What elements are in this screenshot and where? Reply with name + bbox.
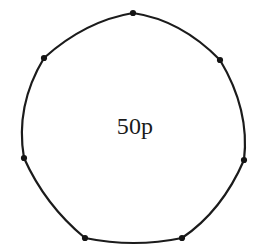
vertex-marker-upper-right: [217, 57, 223, 63]
coin-diagram: 50p: [0, 0, 258, 251]
vertex-marker-top: [130, 10, 136, 16]
vertex-marker-upper-left: [41, 55, 47, 61]
vertex-marker-right: [241, 157, 247, 163]
vertex-marker-left: [21, 155, 27, 161]
vertex-marker-bottom-right: [179, 235, 185, 241]
vertex-marker-bottom-left: [82, 235, 88, 241]
coin-denomination-label: 50p: [117, 113, 154, 139]
